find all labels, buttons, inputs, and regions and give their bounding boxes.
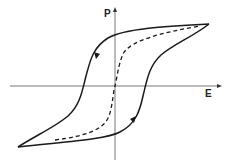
x-axis-label: E (205, 88, 212, 99)
ascending-branch (18, 24, 209, 147)
y-axis-label: P (104, 8, 111, 19)
hysteresis-diagram (0, 0, 230, 168)
x-axis-arrow-icon (217, 84, 222, 88)
down-arrow-icon (94, 52, 100, 59)
y-axis-arrow-icon (113, 7, 117, 12)
